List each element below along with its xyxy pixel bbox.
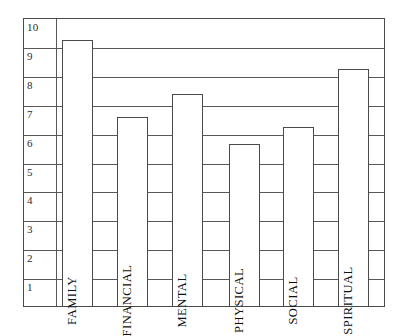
ytick-label-9: 9 bbox=[27, 51, 33, 62]
bar-financial: FINANCIAL bbox=[117, 117, 148, 306]
ytick-label-6: 6 bbox=[27, 138, 33, 149]
bar-label-mental: MENTAL bbox=[175, 273, 188, 327]
ytick-label-4: 4 bbox=[27, 195, 33, 206]
ytick-label-1: 1 bbox=[27, 282, 33, 293]
ytick-label-3: 3 bbox=[27, 224, 33, 235]
bar-label-spiritual: SPIRITUAL bbox=[341, 266, 354, 334]
ytick-label-2: 2 bbox=[27, 253, 33, 264]
ytick-label-7: 7 bbox=[27, 109, 33, 120]
bar-label-social: SOCIAL bbox=[286, 276, 299, 324]
bar-spiritual: SPIRITUAL bbox=[338, 69, 369, 306]
ytick-label-5: 5 bbox=[27, 167, 33, 178]
bar-physical: PHYSICAL bbox=[229, 144, 260, 306]
y-axis-label-rule bbox=[56, 19, 57, 306]
ytick-label-10: 10 bbox=[27, 22, 38, 33]
bar-family: FAMILY bbox=[62, 40, 93, 306]
bar-social: SOCIAL bbox=[283, 127, 314, 306]
bar-label-physical: PHYSICAL bbox=[232, 267, 245, 332]
bar-mental: MENTAL bbox=[172, 94, 203, 306]
bar-label-family: FAMILY bbox=[65, 276, 78, 325]
bar-label-financial: FINANCIAL bbox=[120, 264, 133, 336]
ytick-label-8: 8 bbox=[27, 80, 33, 91]
plot-area: 10 9 8 7 6 5 4 3 2 1 FAMILY FINANCIAL ME… bbox=[23, 18, 385, 307]
